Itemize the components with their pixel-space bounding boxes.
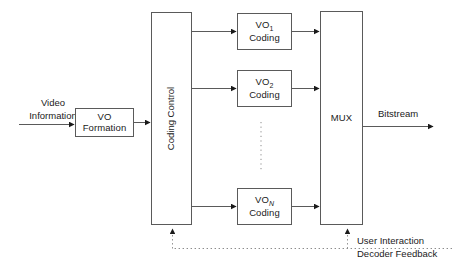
vo1-coding-label: VO1 Coding bbox=[249, 20, 280, 44]
block-mux[interactable]: MUX bbox=[320, 11, 363, 225]
von-coding-line2: Coding bbox=[249, 208, 280, 219]
feedback-line2: Decoder Feedback bbox=[357, 248, 437, 261]
von-subscript: N bbox=[269, 199, 274, 206]
vo-formation-line2: Formation bbox=[83, 123, 127, 134]
block-vo1-coding[interactable]: VO1 Coding bbox=[237, 13, 292, 50]
vo2-coding-line1: VO2 bbox=[249, 77, 280, 90]
block-vo2-coding[interactable]: VO2 Coding bbox=[237, 70, 292, 107]
diagram-connectors-layer bbox=[0, 0, 452, 274]
coding-control-label: Coding Control bbox=[166, 87, 177, 150]
vo-formation-label: VO Formation bbox=[83, 112, 127, 134]
vo1-coding-line2: Coding bbox=[249, 33, 280, 44]
block-diagram-canvas: Video Information Bitstream User Interac… bbox=[0, 0, 452, 274]
vo2-subscript: 2 bbox=[269, 81, 273, 88]
von-coding-label: VON Coding bbox=[249, 195, 280, 219]
feedback-line1: User Interaction bbox=[357, 235, 437, 248]
vo-formation-line1: VO bbox=[83, 112, 127, 123]
vo1-prefix: VO bbox=[256, 19, 270, 30]
vo2-prefix: VO bbox=[256, 76, 270, 87]
block-coding-control[interactable]: Coding Control bbox=[151, 12, 192, 225]
block-von-coding[interactable]: VON Coding bbox=[237, 188, 292, 225]
von-prefix: VO bbox=[255, 194, 269, 205]
bitstream-label: Bitstream bbox=[378, 108, 418, 121]
von-coding-line1: VON bbox=[249, 195, 280, 208]
block-vo-formation[interactable]: VO Formation bbox=[75, 108, 134, 137]
vo1-subscript: 1 bbox=[269, 24, 273, 31]
feedback-label: User Interaction Decoder Feedback bbox=[357, 235, 437, 260]
mux-label: MUX bbox=[331, 113, 352, 124]
vo2-coding-label: VO2 Coding bbox=[249, 77, 280, 101]
vo1-coding-line1: VO1 bbox=[249, 20, 280, 33]
vo2-coding-line2: Coding bbox=[249, 90, 280, 101]
